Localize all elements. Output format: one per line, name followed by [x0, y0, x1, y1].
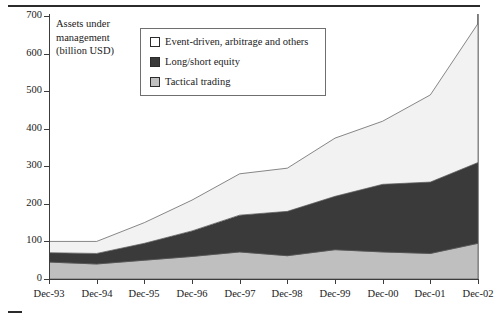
gray-square-icon	[150, 77, 160, 87]
legend-item-tactical: Tactical trading	[150, 76, 317, 87]
y-axis-label: 600	[0, 48, 42, 60]
top-divider-rule	[8, 5, 480, 7]
legend-item-event-driven: Event-driven, arbitrage and others	[150, 36, 317, 47]
legend-label-tactical: Tactical trading	[165, 76, 230, 87]
y-axis-tick	[44, 54, 49, 55]
y-axis-label-text: 400	[4, 123, 42, 133]
legend-label-event-driven: Event-driven, arbitrage and others	[165, 36, 308, 47]
y-axis-label: 700	[0, 10, 42, 22]
x-axis-label: Dec-02	[448, 288, 498, 300]
y-axis-tick	[44, 129, 49, 130]
x-axis-tick	[192, 279, 193, 284]
y-axis-line	[49, 14, 50, 280]
x-axis-tick	[240, 279, 241, 284]
y-axis-label: 0	[0, 273, 42, 285]
y-axis-label-text: 500	[4, 85, 42, 95]
x-axis-tick	[335, 279, 336, 284]
y-axis-tick	[44, 204, 49, 205]
x-axis-tick	[478, 279, 479, 284]
x-axis-tick	[144, 279, 145, 284]
x-axis-tick	[383, 279, 384, 284]
plot-right-border	[478, 14, 479, 280]
y-axis-label: 400	[0, 123, 42, 135]
y-axis-label-text: 600	[4, 48, 42, 58]
y-axis-label-text: 700	[4, 10, 42, 20]
legend-item-long-short: Long/short equity	[150, 56, 317, 67]
legend-label-long-short: Long/short equity	[165, 56, 240, 67]
x-axis-tick	[97, 279, 98, 284]
y-axis-label-text: 200	[4, 198, 42, 208]
y-axis-label-text: 0	[4, 273, 42, 283]
x-axis-line	[49, 279, 479, 280]
x-axis-tick	[287, 279, 288, 284]
bottom-divider-rule	[8, 311, 22, 313]
x-axis-tick	[430, 279, 431, 284]
y-axis-label: 500	[0, 85, 42, 97]
chart-legend: Event-driven, arbitrage and others Long/…	[140, 28, 326, 96]
y-axis-tick	[44, 91, 49, 92]
y-axis-tick	[44, 16, 49, 17]
y-axis-tick	[44, 166, 49, 167]
black-square-icon	[150, 57, 160, 67]
y-axis-label: 100	[0, 235, 42, 247]
y-axis-label: 200	[0, 198, 42, 210]
x-axis-tick	[49, 279, 50, 284]
white-square-icon	[150, 37, 160, 47]
y-axis-label: 300	[0, 160, 42, 172]
y-axis-tick	[44, 241, 49, 242]
y-axis-label-text: 100	[4, 235, 42, 245]
y-axis-label-text: 300	[4, 160, 42, 170]
